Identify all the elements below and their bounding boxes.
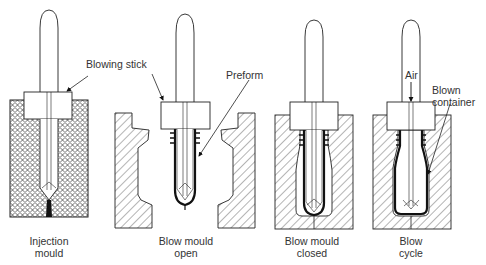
blown-container-label-line1: Blown xyxy=(432,84,461,96)
caption-line2: mould xyxy=(18,247,80,259)
left-mould-half xyxy=(115,113,152,228)
blowing-stick-rod xyxy=(40,10,58,92)
diagram-drawing xyxy=(0,0,486,265)
blow-cycle-stage xyxy=(373,20,451,229)
caption-blow-mould-closed: Blow mould closed xyxy=(276,235,348,259)
caption-line1: Blow mould xyxy=(276,235,348,247)
blow-moulding-diagram: Blowing stick Preform Air Blown containe… xyxy=(0,0,486,265)
caption-line2: open xyxy=(150,247,222,259)
air-label: Air xyxy=(405,69,418,81)
blow-mould-closed-stage xyxy=(275,20,353,229)
caption-injection-mould: Injection mould xyxy=(18,235,80,259)
blow-mould-open-stage xyxy=(115,14,255,228)
blown-container-label-line2: container xyxy=(432,96,475,108)
injection-mould-stage xyxy=(10,10,88,217)
preform-label: Preform xyxy=(226,69,263,81)
caption-blow-cycle: Blow cycle xyxy=(388,235,434,259)
caption-line1: Blow xyxy=(388,235,434,247)
blowing-stick-label: Blowing stick xyxy=(86,58,147,70)
right-mould-half xyxy=(218,113,255,228)
caption-line2: cycle xyxy=(388,247,434,259)
caption-blow-mould-open: Blow mould open xyxy=(150,235,222,259)
caption-line1: Injection xyxy=(18,235,80,247)
caption-line1: Blow mould xyxy=(150,235,222,247)
caption-line2: closed xyxy=(276,247,348,259)
